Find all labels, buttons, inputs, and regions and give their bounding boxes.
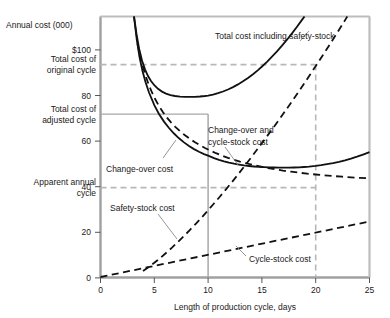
annotations: Total cost including safety-stock Change… (106, 31, 335, 264)
annotation-change-over-cost: Change-over cost (106, 164, 174, 174)
annotation-change-over-and-cycle-stock-cost-line1: Change-over and (208, 125, 274, 135)
x-tick-labels: 0 5 10 15 20 25 (98, 285, 374, 295)
x-axis-title: Length of production cycle, days (174, 302, 296, 312)
x-tick-label: 5 (152, 285, 157, 295)
y-tick-label: 20 (82, 227, 92, 237)
curve-total-cost-including-safety-stock-final (134, 17, 305, 97)
x-tick-label: 10 (203, 285, 213, 295)
side-label-apparent-annual-cycle-line1: Apparent annual (34, 177, 96, 187)
annotation-total-cost-including-safety-stock: Total cost including safety-stock (215, 31, 335, 41)
annotation-change-over-and-cycle-stock-cost-line2: cycle-stock cost (208, 137, 269, 147)
y-tick-label: 80 (82, 91, 92, 101)
leader-safety-stock-cost (158, 214, 177, 239)
x-tick-label: 25 (365, 285, 375, 295)
curve-change-over-cost (138, 44, 370, 179)
y-tick-label: 60 (82, 136, 92, 146)
side-label-original-cycle-line1: Total cost of (51, 54, 97, 64)
annotation-cycle-stock-cost: Cycle-stock cost (249, 254, 312, 264)
curve-cycle-stock-cost (101, 222, 370, 278)
leader-change-over-cost (163, 140, 176, 158)
side-labels: Total cost of original cycle Total cost … (34, 54, 97, 198)
x-tick-label: 0 (98, 285, 103, 295)
y-tick-label: 0 (86, 273, 91, 283)
y-axis-title: Annual cost (000) (6, 20, 73, 30)
annotation-safety-stock-cost: Safety-stock cost (110, 203, 175, 213)
chart-page: $100 80 60 40 20 0 0 5 10 15 20 25 Annua… (0, 0, 390, 318)
side-label-adjusted-cycle-line1: Total cost of (51, 104, 97, 114)
side-label-apparent-annual-cycle-line2: cycle (77, 188, 97, 198)
x-tick-label: 20 (311, 285, 321, 295)
y-tick-labels: $100 80 60 40 20 0 (72, 45, 91, 283)
side-label-adjusted-cycle-line2: adjusted cycle (42, 115, 96, 125)
side-label-original-cycle-line2: original cycle (47, 65, 96, 75)
cost-vs-cycle-length-chart: $100 80 60 40 20 0 0 5 10 15 20 25 Annua… (0, 0, 390, 318)
x-tick-label: 15 (257, 285, 267, 295)
